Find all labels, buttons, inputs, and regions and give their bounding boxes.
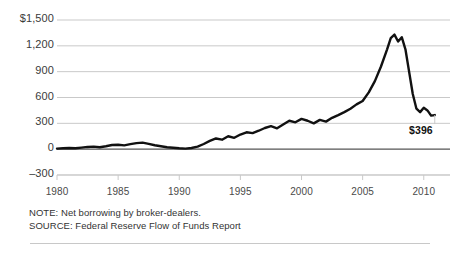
x-tick-label-5: 2005 [341, 186, 385, 197]
bottom-divider [30, 243, 430, 244]
data-line [57, 35, 435, 149]
y-tick-label-4: 300 [8, 115, 54, 127]
end-value-label: $396 [409, 124, 433, 136]
chart-figure: $1,5001,2009006003000–300 19801985199019… [0, 0, 459, 254]
x-tick-label-3: 1995 [218, 186, 262, 197]
y-tick-label-1: 1,200 [8, 38, 54, 50]
x-tick-label-0: 1980 [35, 186, 79, 197]
gridlines-group [57, 20, 450, 175]
y-tick-label-6: –300 [8, 167, 54, 179]
source-text: SOURCE: Federal Reserve Flow of Funds Re… [29, 220, 241, 231]
y-tick-label-2: 900 [8, 64, 54, 76]
x-tick-label-6: 2010 [402, 186, 446, 197]
x-tick-label-2: 1990 [157, 186, 201, 197]
note-text: NOTE: Net borrowing by broker-dealers. [29, 207, 201, 218]
y-tick-label-5: 0 [8, 141, 54, 153]
x-tick-label-1: 1985 [96, 186, 140, 197]
data-line-group [57, 35, 435, 149]
y-tick-label-0: $1,500 [8, 12, 54, 24]
y-tick-label-3: 600 [8, 90, 54, 102]
x-tick-label-4: 2000 [280, 186, 324, 197]
x-tick-marks-group [57, 175, 450, 180]
